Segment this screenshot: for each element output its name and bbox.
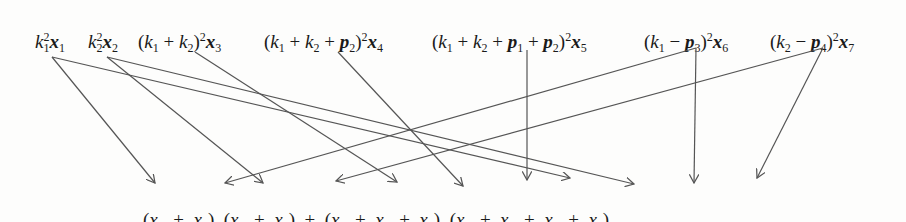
arrow-x4 (338, 52, 463, 186)
connection-arrows (0, 0, 906, 222)
arrow-x6-group1 (225, 48, 696, 183)
arrow-x1-group1 (52, 57, 155, 183)
arrow-x6-group4 (694, 48, 696, 183)
arrow-x7-group4 (757, 48, 823, 178)
arrow-x7-group2 (336, 48, 823, 181)
feynman-parameter-diagram: k21x1 k22x2 (k1 + k2)2x3 (k1 + k2 + p2)2… (0, 0, 906, 222)
